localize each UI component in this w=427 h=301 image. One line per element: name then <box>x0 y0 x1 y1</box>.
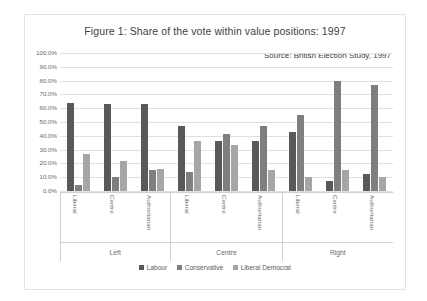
legend-swatch-icon <box>177 265 182 270</box>
legend-label: Labour <box>147 264 168 271</box>
bar <box>305 177 312 191</box>
y-axis-tick-label: 50.0% <box>39 119 57 125</box>
category-axis-cell: Centre <box>97 193 134 242</box>
category-axis-label: Centre <box>220 195 226 214</box>
chart-title: Figure 1: Share of the vote within value… <box>25 25 405 37</box>
bar <box>326 181 333 191</box>
category-axis-cell: Centre <box>319 193 356 242</box>
bar <box>178 126 185 191</box>
bar <box>67 103 74 191</box>
bar-cluster <box>245 53 282 191</box>
category-axis-group: LiberalCentreAuthoritarian <box>283 193 393 242</box>
bar <box>342 170 349 191</box>
bar <box>215 141 222 191</box>
y-axis-tick-label: 60.0% <box>39 105 57 111</box>
category-axis-label: Authoritarian <box>257 195 263 230</box>
bar <box>223 134 230 191</box>
bar <box>186 172 193 191</box>
bar <box>334 81 341 191</box>
bar <box>83 154 90 191</box>
category-axis-label: Authoritarian <box>146 195 152 230</box>
bar <box>120 161 127 191</box>
bar <box>260 126 267 191</box>
group-axis: LeftCentreRight <box>60 242 393 261</box>
y-axis-tick-label: 30.0% <box>39 146 57 152</box>
bar-cluster <box>60 53 97 191</box>
category-axis-label: Centre <box>109 195 115 214</box>
legend-label: Liberal Democrat <box>241 264 291 271</box>
y-axis-tick-label: 40.0% <box>39 133 57 139</box>
bar <box>363 174 370 191</box>
y-axis-tick-label: 90.0% <box>39 64 57 70</box>
y-axis-tick-label: 100.0% <box>36 50 57 56</box>
bar <box>104 104 111 191</box>
category-axis-label: Liberal <box>295 195 301 214</box>
category-axis-cell: Liberal <box>60 193 97 242</box>
bar <box>268 170 275 191</box>
legend-item[interactable]: Labour <box>139 264 167 271</box>
bar-cluster <box>171 53 208 191</box>
category-axis-label: Liberal <box>72 195 78 214</box>
bars-layer <box>60 53 393 191</box>
bar <box>289 132 296 191</box>
bar <box>157 169 164 191</box>
bar <box>75 185 82 191</box>
plot-area: 100.0%90.0%80.0%70.0%60.0%50.0%40.0%30.0… <box>60 53 393 191</box>
bar <box>231 145 238 191</box>
group-axis-label: Right <box>283 243 393 261</box>
chart-container: Figure 1: Share of the vote within value… <box>24 14 406 290</box>
category-axis-cell: Authoritarian <box>356 193 393 242</box>
y-axis-tick-label: 80.0% <box>39 77 57 83</box>
bar <box>112 177 119 191</box>
category-axis-cell: Liberal <box>283 193 320 242</box>
category-axis-group: LiberalCentreAuthoritarian <box>171 193 282 242</box>
chart-legend: LabourConservativeLiberal Democrat <box>25 264 405 271</box>
category-axis-cell: Centre <box>208 193 245 242</box>
category-axis: LiberalCentreAuthoritarianLiberalCentreA… <box>60 192 393 242</box>
legend-item[interactable]: Liberal Democrat <box>233 264 291 271</box>
bar-cluster <box>208 53 245 191</box>
bar-cluster <box>356 53 393 191</box>
bar-cluster <box>282 53 319 191</box>
bar <box>371 85 378 191</box>
group-axis-label: Centre <box>171 243 282 261</box>
category-axis-label: Liberal <box>184 195 190 214</box>
y-axis-tick-label: 10.0% <box>39 174 57 180</box>
bar <box>297 115 304 191</box>
y-axis-tick-label: 0.0% <box>43 188 57 194</box>
category-axis-cell: Authoritarian <box>245 193 282 242</box>
legend-swatch-icon <box>139 265 144 270</box>
bar <box>252 141 259 191</box>
category-axis-cell: Liberal <box>171 193 208 242</box>
bar-cluster <box>97 53 134 191</box>
bar-cluster <box>319 53 356 191</box>
bar <box>149 170 156 191</box>
bar-group <box>282 53 393 191</box>
y-axis-tick-label: 70.0% <box>39 91 57 97</box>
category-axis-group: LiberalCentreAuthoritarian <box>60 193 171 242</box>
bar-cluster <box>134 53 171 191</box>
category-axis-label: Authoritarian <box>368 195 374 230</box>
bar-group <box>171 53 282 191</box>
legend-item[interactable]: Conservative <box>177 264 223 271</box>
bar <box>194 141 201 191</box>
category-axis-cell: Authoritarian <box>134 193 171 242</box>
bar <box>379 177 386 191</box>
legend-label: Conservative <box>185 264 223 271</box>
legend-swatch-icon <box>233 265 238 270</box>
category-axis-label: Centre <box>332 195 338 214</box>
bar-group <box>60 53 171 191</box>
group-axis-label: Left <box>60 243 171 261</box>
bar <box>141 104 148 191</box>
y-axis-tick-label: 20.0% <box>39 160 57 166</box>
